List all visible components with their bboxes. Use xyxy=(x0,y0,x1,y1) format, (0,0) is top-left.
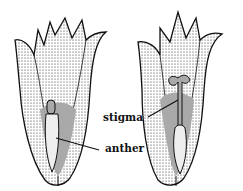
left-anther-tip xyxy=(47,100,55,114)
flower-diagram xyxy=(0,0,243,191)
left-flower xyxy=(15,18,106,186)
anther-label: anther xyxy=(105,143,144,154)
stigma-label: stigma xyxy=(103,112,143,123)
right-flower xyxy=(138,12,222,186)
